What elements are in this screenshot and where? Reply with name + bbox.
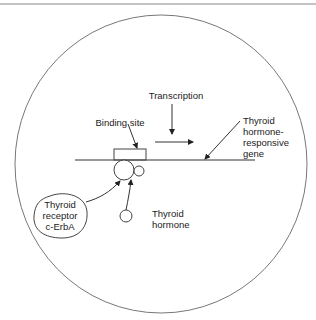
binding-site-box bbox=[114, 149, 146, 160]
receptor-pointer bbox=[86, 181, 120, 202]
hormone-label-line2: hormone bbox=[152, 219, 190, 230]
thyroid-hormone-diagram: Transcription Binding site Thyroid hormo… bbox=[0, 0, 316, 320]
receptor-large-circle bbox=[114, 160, 134, 180]
binding-site-label: Binding site bbox=[95, 117, 144, 128]
gene-label-line4: gene bbox=[243, 148, 264, 159]
gene-label-line1: Thyroid bbox=[243, 115, 275, 126]
hormone-label-line1: Thyroid bbox=[152, 208, 184, 219]
receptor-label-line1: Thyroid bbox=[44, 199, 76, 210]
gene-label-line2: hormone- bbox=[243, 126, 284, 137]
receptor-small-circle bbox=[134, 166, 144, 176]
gene-label-line3: responsive bbox=[243, 137, 289, 148]
transcription-label: Transcription bbox=[149, 90, 204, 101]
hormone-pointer bbox=[126, 180, 131, 210]
receptor-label-line2: receptor bbox=[43, 210, 78, 221]
receptor-label-line3: c-ErbA bbox=[45, 221, 75, 232]
gene-pointer bbox=[205, 121, 240, 159]
hormone-circle bbox=[120, 210, 132, 222]
cell-outline bbox=[15, 15, 307, 313]
